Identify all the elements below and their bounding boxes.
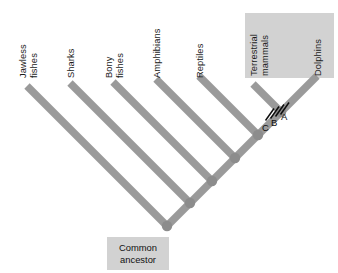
tip-label-amphibians: Amphibians xyxy=(152,14,163,78)
branch-amphibians xyxy=(156,79,235,158)
common-ancestor-label: Common ancestor xyxy=(119,242,157,265)
tip-label-terrestrial-mammals: Terrestrial mammals xyxy=(249,16,270,76)
tip-label-jawless-fishes: Jawless fishes xyxy=(18,14,39,78)
branch-terrestrial-mammals xyxy=(253,84,281,112)
tick-label-c: C xyxy=(262,122,269,133)
tip-label-reptiles: Reptiles xyxy=(195,14,206,78)
node-amphibians-split xyxy=(230,153,240,163)
tick-label-b: B xyxy=(271,117,277,128)
branch-bony-fishes xyxy=(113,82,212,181)
common-ancestor-box: Common ancestor xyxy=(107,237,169,270)
tip-label-sharks: Sharks xyxy=(66,14,77,78)
node-root xyxy=(162,221,172,231)
tree-branches xyxy=(0,0,338,273)
tick-label-a: A xyxy=(281,111,287,122)
tip-label-bony-fishes: Bony fishes xyxy=(104,14,125,78)
node-sharks-split xyxy=(185,198,195,208)
tip-label-dolphins: Dolphins xyxy=(313,16,324,76)
cladogram-figure: Jawless fishes Sharks Bony fishes Amphib… xyxy=(0,0,338,273)
node-bony-fishes-split xyxy=(207,176,217,186)
